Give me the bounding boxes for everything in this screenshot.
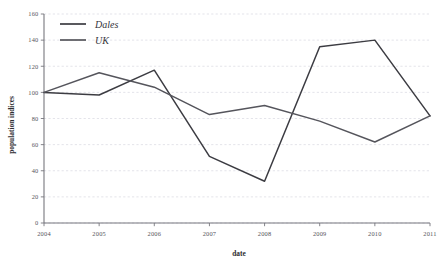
y-tick-label-160: 160 bbox=[28, 10, 38, 17]
x-tick-label-2009: 2009 bbox=[313, 230, 327, 237]
y-tick-labels: 020406080100120140160 bbox=[28, 10, 38, 226]
y-tick-label-40: 40 bbox=[32, 167, 39, 174]
y-tick-label-0: 0 bbox=[35, 219, 38, 226]
x-tick-label-2005: 2005 bbox=[92, 230, 106, 237]
y-tick-label-60: 60 bbox=[32, 141, 39, 148]
x-tick-labels: 20042005200620072008200920102011 bbox=[37, 230, 436, 237]
y-tick-label-120: 120 bbox=[28, 63, 38, 70]
population-indices-line-chart: 020406080100120140160 200420052006200720… bbox=[0, 0, 438, 262]
series-lines bbox=[44, 40, 430, 181]
x-tick-label-2007: 2007 bbox=[203, 230, 217, 237]
y-tick-label-80: 80 bbox=[32, 115, 39, 122]
x-axis-title: date bbox=[232, 249, 246, 258]
x-tick-label-2010: 2010 bbox=[368, 230, 382, 237]
x-tick-label-2006: 2006 bbox=[147, 230, 161, 237]
chart-canvas: 020406080100120140160 200420052006200720… bbox=[0, 0, 438, 262]
x-tick-label-2004: 2004 bbox=[37, 230, 51, 237]
y-axis-title: population indices bbox=[7, 96, 16, 154]
x-tick-label-2011: 2011 bbox=[423, 230, 436, 237]
y-tick-label-140: 140 bbox=[28, 36, 38, 43]
x-tick-label-2008: 2008 bbox=[258, 230, 272, 237]
y-tick-label-20: 20 bbox=[32, 193, 39, 200]
legend-label-dales: Dales bbox=[94, 19, 118, 30]
y-tick-label-100: 100 bbox=[28, 89, 38, 96]
legend-label-uk: UK bbox=[95, 35, 110, 46]
series-line-uk bbox=[44, 73, 430, 142]
legend: DalesUK bbox=[60, 19, 118, 46]
